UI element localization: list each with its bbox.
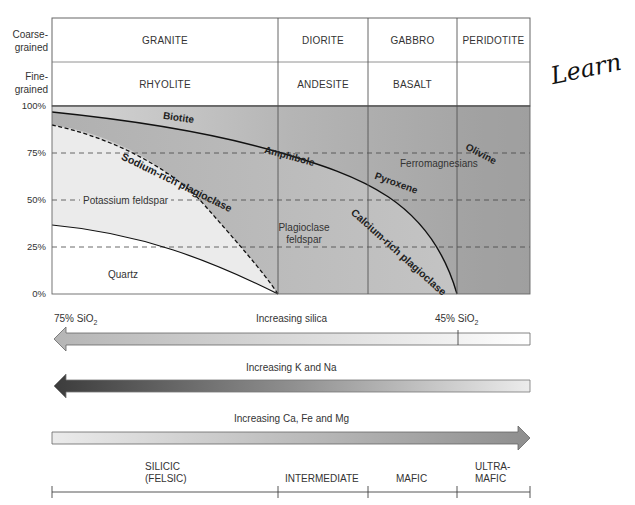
cell-peridotite: PERIDOTITE <box>457 18 530 62</box>
label-ferromagnesians: Ferromagnesians <box>400 157 478 170</box>
ca-fe-mg-arrow <box>52 426 530 450</box>
label-75-sio2: 75% SiO2 <box>54 312 97 329</box>
scale-mafic: MAFIC <box>396 473 427 485</box>
k-na-arrow <box>54 374 530 398</box>
label-feldspar: feldspar <box>268 233 340 246</box>
ytick-0: 0% <box>0 288 46 299</box>
label-increasing-silica: Increasing silica <box>256 312 327 325</box>
ytick-50: 50% <box>0 194 46 205</box>
cell-empty <box>457 62 530 106</box>
label-increasing-ca-fe-mg: Increasing Ca, Fe and Mg <box>234 412 349 425</box>
ytick-100: 100% <box>0 100 46 111</box>
scale-ultra-mafic: MAFIC <box>475 473 506 485</box>
ytick-25: 25% <box>0 241 46 252</box>
coarse-grained-label: Coarse- grained <box>0 28 48 54</box>
label-increasing-k-na: Increasing K and Na <box>246 361 337 374</box>
cell-andesite: ANDESITE <box>278 62 368 106</box>
cell-rhyolite: RHYOLITE <box>52 62 278 106</box>
cell-diorite: DIORITE <box>278 18 368 62</box>
scale-ultra: ULTRA- <box>475 461 510 473</box>
silica-arrow <box>54 327 530 351</box>
ytick-75: 75% <box>0 147 46 158</box>
cell-gabbro: GABBRO <box>368 18 457 62</box>
cell-basalt: BASALT <box>368 62 457 106</box>
label-45-sio2: 45% SiO2 <box>435 312 478 329</box>
scale-silicic: SILICIC <box>145 461 180 473</box>
classification-scale <box>52 486 530 498</box>
fine-grained-label: Fine- grained <box>0 70 48 96</box>
label-potassium-feldspar: Potassium feldspar <box>80 194 171 207</box>
cell-granite: GRANITE <box>52 18 278 62</box>
scale-intermediate: INTERMEDIATE <box>285 473 359 485</box>
scale-felsic: (FELSIC) <box>145 473 187 485</box>
label-quartz: Quartz <box>108 268 138 281</box>
